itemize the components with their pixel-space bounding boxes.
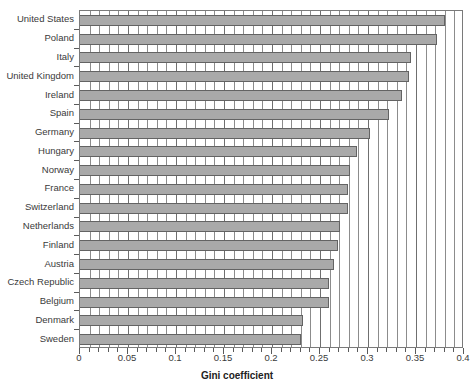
x-axis-tick-label: 0.1 <box>155 352 195 363</box>
bar <box>80 90 402 101</box>
plot-area <box>79 10 463 348</box>
bar-series <box>80 11 462 347</box>
y-axis-label: Belgium <box>40 296 74 306</box>
bar <box>80 34 437 45</box>
bar <box>80 52 411 63</box>
y-axis-label: Finland <box>43 240 74 250</box>
bar-row <box>80 52 463 63</box>
bar <box>80 315 303 326</box>
bar-row <box>80 184 463 195</box>
bar-row <box>80 15 463 26</box>
bar <box>80 203 348 214</box>
bar-row <box>80 315 463 326</box>
bar-row <box>80 71 463 82</box>
y-axis-label: United Kingdom <box>6 71 74 81</box>
y-axis-label: Germany <box>35 127 74 137</box>
y-axis-label: Spain <box>50 108 74 118</box>
bar-row <box>80 146 463 157</box>
bar <box>80 146 357 157</box>
y-axis-label: Norway <box>42 165 74 175</box>
gini-coefficient-bar-chart: United StatesPolandItalyUnited KingdomIr… <box>0 0 474 392</box>
y-axis-label: Sweden <box>40 334 74 344</box>
x-axis-tick-label: 0.15 <box>203 352 243 363</box>
x-axis-title: Gini coefficient <box>0 370 474 381</box>
bar <box>80 184 348 195</box>
bar-row <box>80 128 463 139</box>
bar <box>80 128 370 139</box>
x-axis-tick-label: 0.05 <box>107 352 147 363</box>
y-axis-label: Austria <box>44 259 74 269</box>
bar-row <box>80 278 463 289</box>
y-axis-label: Czech Republic <box>7 277 74 287</box>
y-axis-label: Switzerland <box>25 202 74 212</box>
bar-row <box>80 221 463 232</box>
bar <box>80 165 350 176</box>
x-axis-tick-label: 0.35 <box>395 352 435 363</box>
y-axis-label: United States <box>17 14 74 24</box>
bar-row <box>80 297 463 308</box>
bar-row <box>80 259 463 270</box>
x-axis-tick-label: 0 <box>59 352 99 363</box>
bar <box>80 259 334 270</box>
y-axis-label: France <box>44 183 74 193</box>
x-axis-tick-label: 0.25 <box>299 352 339 363</box>
bar-row <box>80 334 463 345</box>
x-axis-tick-label: 0.2 <box>251 352 291 363</box>
x-axis-tick-labels: 00.050.10.150.20.250.30.350.4 <box>0 352 474 366</box>
bar <box>80 240 338 251</box>
bar <box>80 297 329 308</box>
x-axis-tick-label: 0.3 <box>347 352 387 363</box>
x-axis-tick-label: 0.4 <box>443 352 474 363</box>
bar-row <box>80 165 463 176</box>
bar-row <box>80 34 463 45</box>
y-axis-label: Hungary <box>38 146 74 156</box>
y-axis-label: Netherlands <box>23 221 74 231</box>
y-axis-label: Ireland <box>45 90 74 100</box>
y-axis-label: Denmark <box>35 315 74 325</box>
bar <box>80 334 301 345</box>
bar-row <box>80 90 463 101</box>
bar <box>80 15 445 26</box>
bar <box>80 71 409 82</box>
y-axis-category-labels: United StatesPolandItalyUnited KingdomIr… <box>0 10 74 348</box>
y-axis-label: Poland <box>44 33 74 43</box>
y-axis-label: Italy <box>57 52 74 62</box>
bar-row <box>80 109 463 120</box>
bar-row <box>80 203 463 214</box>
bar <box>80 109 389 120</box>
bar-row <box>80 240 463 251</box>
bar <box>80 278 329 289</box>
bar <box>80 221 340 232</box>
